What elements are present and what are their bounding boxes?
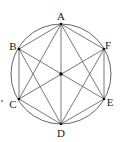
vertex-label-a: A (57, 10, 65, 22)
vertex-point-a (60, 23, 63, 26)
vertex-label-c: C (9, 98, 16, 110)
vertex-label-f: F (105, 39, 111, 51)
segment-de (61, 99, 104, 124)
hexagon-diagram: A B C D E F (0, 0, 120, 142)
segment-cd (19, 99, 61, 124)
vertex-point-c (18, 98, 21, 101)
vertex-point-e (103, 98, 106, 101)
vertex-label-b: B (9, 40, 16, 52)
center-point (59, 72, 63, 76)
stray-dot (1, 100, 3, 102)
vertex-point-d (60, 123, 63, 126)
vertex-label-d: D (57, 127, 65, 139)
vertex-label-e: E (107, 96, 114, 108)
segment-ab (19, 24, 61, 49)
segment-fa (61, 24, 104, 49)
vertex-point-b (18, 48, 21, 51)
